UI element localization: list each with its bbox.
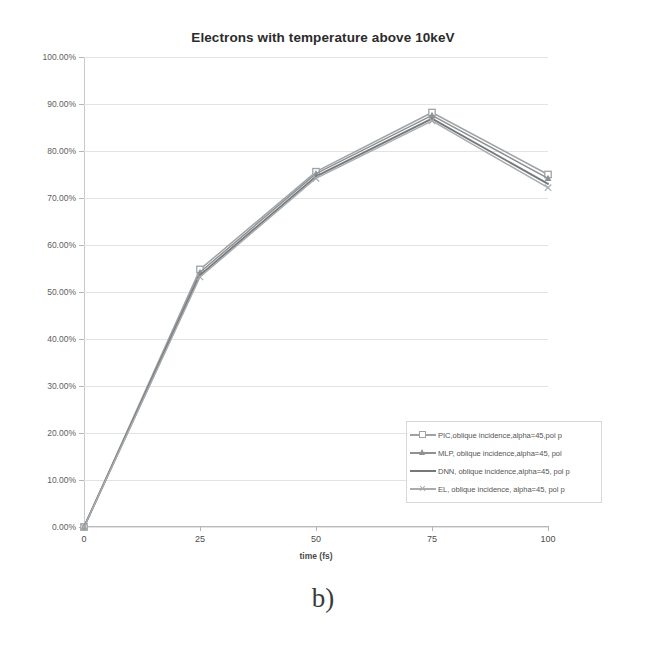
x-tick-label: 25 [180,534,220,544]
y-tick-label: 20.00% [47,428,76,438]
y-tick-label: 40.00% [47,334,76,344]
legend-label: PIC,oblique incidence,alpha=45,pol p [438,431,562,440]
legend-key-icon [410,465,436,477]
x-tick-label: 75 [412,534,452,544]
chart-title: Electrons with temperature above 10keV [0,30,646,45]
legend-item-1[interactable]: PIC,oblique incidence,alpha=45,pol p [410,426,598,444]
y-tick-label: 80.00% [47,146,76,156]
y-tick-label: 10.00% [47,475,76,485]
y-tick-label: 0.00% [52,522,76,532]
y-tick-label: 90.00% [47,99,76,109]
data-point-marker [545,185,551,191]
y-tick-label: 50.00% [47,287,76,297]
x-tick-label: 0 [64,534,104,544]
y-tick-label: 70.00% [47,193,76,203]
legend-key-icon [410,447,436,459]
x-axis-title: time (fs) [84,551,548,561]
legend-label: MLP, oblique incidence,alpha=45, pol [438,449,562,458]
x-tick-mark [548,526,549,531]
x-tick-label: 100 [528,534,568,544]
y-tick-label: 60.00% [47,240,76,250]
figure-container: Electrons with temperature above 10keV 0… [0,0,646,650]
legend-marker-swatch [419,485,426,492]
legend-line-swatch [410,470,436,472]
legend-marker-swatch [419,449,425,455]
legend-label: EL, oblique incidence, alpha=45, pol p [438,485,565,494]
legend-item-4[interactable]: EL, oblique incidence, alpha=45, pol p [410,480,598,498]
legend-key-icon [410,429,436,441]
y-tick-label: 100.00% [42,52,76,62]
legend-marker-swatch [419,431,426,438]
chart-legend: PIC,oblique incidence,alpha=45,pol pMLP,… [406,421,602,503]
figure-caption: b) [0,583,646,614]
legend-item-2[interactable]: MLP, oblique incidence,alpha=45, pol [410,444,598,462]
x-tick-label: 50 [296,534,336,544]
legend-item-3[interactable]: DNN, oblique incidence,alpha=45, pol p [410,462,598,480]
y-tick-label: 30.00% [47,381,76,391]
legend-label: DNN, oblique incidence,alpha=45, pol p [438,467,570,476]
legend-key-icon [410,483,436,495]
